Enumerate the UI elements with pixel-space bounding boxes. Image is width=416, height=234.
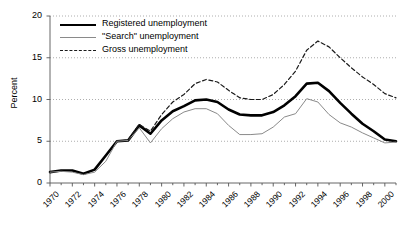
y-axis-tick: 20 bbox=[20, 10, 42, 20]
y-axis-tick: 15 bbox=[20, 52, 42, 62]
unemployment-line-chart: Percent 05101520 19701972197419761978198… bbox=[0, 0, 416, 234]
legend-label-search: "Search" unemployment bbox=[102, 31, 198, 42]
y-axis-tick: 5 bbox=[20, 135, 42, 145]
legend-label-registered: Registered unemployment bbox=[102, 18, 207, 29]
legend-item-gross: Gross unemployment bbox=[60, 43, 207, 56]
legend-line-registered-icon bbox=[60, 18, 96, 29]
series-line bbox=[50, 83, 396, 174]
legend-item-search: "Search" unemployment bbox=[60, 30, 207, 43]
legend-line-search-icon bbox=[60, 31, 96, 42]
chart-legend: Registered unemployment "Search" unemplo… bbox=[60, 17, 207, 56]
y-axis-tick: 0 bbox=[20, 177, 42, 187]
series-line bbox=[50, 99, 396, 175]
y-axis-tick: 10 bbox=[20, 94, 42, 104]
legend-item-registered: Registered unemployment bbox=[60, 17, 207, 30]
y-axis-label: Percent bbox=[9, 63, 19, 123]
legend-line-gross-icon bbox=[60, 44, 96, 55]
legend-label-gross: Gross unemployment bbox=[102, 44, 188, 55]
